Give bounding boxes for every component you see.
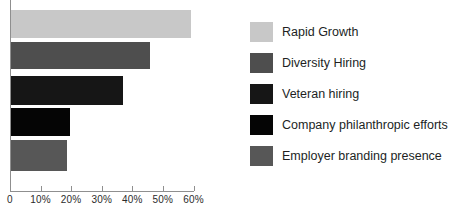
x-axis-tick-mark bbox=[132, 186, 133, 191]
x-axis-tick-label: 10% bbox=[30, 194, 51, 205]
bar bbox=[11, 42, 150, 69]
legend-item[interactable]: Company philanthropic efforts bbox=[250, 109, 473, 140]
x-axis-tick-mark bbox=[102, 186, 103, 191]
bar-fill bbox=[11, 76, 123, 105]
legend-item-label: Diversity Hiring bbox=[282, 56, 366, 70]
legend-item[interactable]: Veteran hiring bbox=[250, 78, 473, 109]
bar-fill bbox=[11, 10, 191, 38]
x-axis-tick-label: 20% bbox=[61, 194, 82, 205]
legend-item-label: Employer branding presence bbox=[282, 149, 442, 163]
plot-area: 010%20%30%40%50%60% bbox=[0, 0, 240, 217]
legend: Rapid GrowthDiversity HiringVeteran hiri… bbox=[250, 16, 473, 171]
x-axis-tick-mark bbox=[41, 186, 42, 191]
legend-swatch-icon bbox=[250, 53, 273, 73]
legend-swatch-icon bbox=[250, 22, 273, 42]
x-axis-tick-mark bbox=[194, 186, 195, 191]
legend-swatch-icon bbox=[250, 146, 273, 166]
legend-item-label: Veteran hiring bbox=[282, 87, 359, 101]
x-axis-tick-label: 60% bbox=[183, 194, 204, 205]
x-axis-tick-label: 0 bbox=[7, 194, 13, 205]
bar bbox=[11, 108, 70, 136]
legend-swatch-icon bbox=[250, 115, 273, 135]
x-axis-line bbox=[10, 191, 194, 192]
x-axis-tick-mark bbox=[163, 186, 164, 191]
bar-chart: 010%20%30%40%50%60% Rapid GrowthDiversit… bbox=[0, 0, 473, 217]
bar bbox=[11, 76, 123, 105]
legend-item[interactable]: Rapid Growth bbox=[250, 16, 473, 47]
x-axis-tick-label: 40% bbox=[122, 194, 143, 205]
legend-item-label: Rapid Growth bbox=[282, 25, 358, 39]
legend-item[interactable]: Employer branding presence bbox=[250, 140, 473, 171]
bar-fill bbox=[11, 140, 67, 171]
legend-item-label: Company philanthropic efforts bbox=[282, 118, 448, 132]
legend-swatch-icon bbox=[250, 84, 273, 104]
x-axis-tick-mark bbox=[10, 186, 11, 191]
x-axis-tick-mark bbox=[71, 186, 72, 191]
bar bbox=[11, 140, 67, 171]
bar-fill bbox=[11, 108, 70, 136]
bar-fill bbox=[11, 42, 150, 69]
bar bbox=[11, 10, 191, 38]
x-axis-tick-label: 50% bbox=[153, 194, 174, 205]
x-axis-tick-label: 30% bbox=[91, 194, 112, 205]
legend-item[interactable]: Diversity Hiring bbox=[250, 47, 473, 78]
